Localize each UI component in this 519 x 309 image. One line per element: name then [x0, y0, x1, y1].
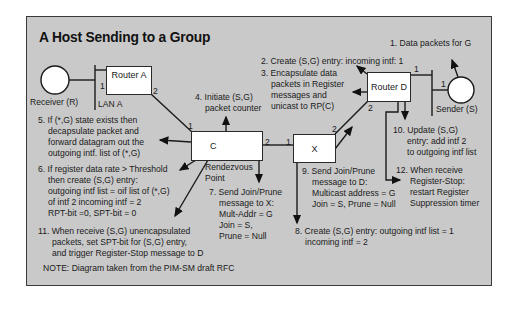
footnote: NOTE: Diagram taken from the PIM-SM draf…	[43, 263, 235, 274]
step-2: 2. Create (S,G) entry: incoming intf: 1	[261, 56, 403, 67]
port-a-2: 2	[153, 86, 158, 96]
step-10: 10. Update (S,G)entry: add intf 2to outg…	[393, 125, 476, 158]
port-s-1: 1	[441, 79, 446, 89]
port-a-1: 1	[100, 81, 105, 91]
router-d-label: Router D	[371, 82, 407, 92]
step-5: 5. If (*,G) state exists thendecapsulate…	[38, 115, 144, 159]
router-a-label: Router A	[111, 70, 146, 80]
port-d-1: 1	[414, 64, 419, 74]
port-c-1: 1	[188, 121, 193, 131]
router-x: X	[293, 134, 336, 163]
step-8: 8. Create (S,G) entry: outgoing intf lis…	[295, 226, 454, 248]
router-x-label: X	[311, 144, 317, 154]
router-d: Router D	[367, 72, 411, 102]
router-a: Router A	[106, 66, 152, 95]
sender-label: Sender (S)	[436, 104, 478, 114]
port-x-1: 1	[286, 137, 291, 147]
step-11: 11. When receive (S,G) unencapsulatedpac…	[38, 226, 203, 259]
router-c-label: C	[210, 141, 217, 151]
step-4: 4. Initiate (S,G)packet counter	[195, 92, 261, 114]
lan-a-label: LAN A	[98, 99, 122, 109]
port-x-2: 2	[332, 124, 337, 134]
rp-label: RendezvousPoint	[205, 162, 253, 184]
step-3: 3. Encapsulate datapackets in Registerme…	[261, 68, 344, 112]
receiver-label: Receiver (R)	[30, 97, 78, 107]
step-6: 6. If register data rate > Thresholdthen…	[38, 164, 170, 219]
step-1: 1. Data packets for G	[390, 38, 471, 49]
rp-router-c: C	[191, 131, 263, 161]
step-9: 9. Send Join/Prunemessage to D:Multicast…	[302, 166, 396, 210]
port-d-2: 2	[368, 103, 373, 113]
step-7: 7. Send Join/Prunemessage to X:Mult-Addr…	[209, 187, 282, 242]
step-12: 12. When receiveRegister-Stop:restart Re…	[396, 165, 479, 209]
port-c-2: 2	[265, 137, 270, 147]
